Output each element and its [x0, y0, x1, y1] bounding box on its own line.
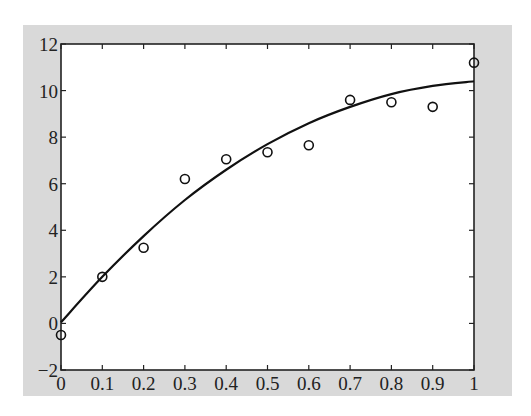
x-tick-label: 0.1	[90, 373, 114, 394]
y-tick-labels: −2024681012	[38, 34, 59, 381]
scatter-plot: 00.10.20.30.40.50.60.70.80.91 −202468101…	[0, 0, 531, 416]
x-tick-label: 0.2	[132, 373, 156, 394]
y-tick-label: 10	[39, 81, 58, 102]
y-tick-label: 0	[49, 313, 59, 334]
x-tick-label: 0.5	[256, 373, 280, 394]
x-tick-label: 0.8	[380, 373, 404, 394]
y-tick-label: 8	[49, 127, 59, 148]
x-tick-label: 0.3	[173, 373, 197, 394]
y-tick-label: 6	[49, 174, 59, 195]
x-tick-label: 0.7	[338, 373, 362, 394]
y-tick-label: −2	[38, 360, 58, 381]
plot-area	[61, 44, 474, 370]
x-tick-label: 0.6	[297, 373, 321, 394]
x-tick-label: 0.4	[214, 373, 238, 394]
x-tick-labels: 00.10.20.30.40.50.60.70.80.91	[56, 373, 479, 394]
y-tick-label: 12	[39, 34, 58, 55]
y-tick-label: 4	[49, 220, 59, 241]
y-tick-label: 2	[49, 267, 59, 288]
x-tick-label: 0.9	[421, 373, 445, 394]
x-tick-label: 1	[469, 373, 479, 394]
